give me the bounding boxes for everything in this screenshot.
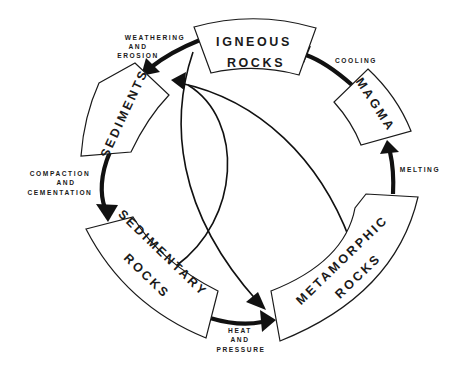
arrow-metamorphic-to-sediments (171, 72, 350, 240)
melting-label: MELTING (400, 166, 440, 173)
heat-line1: HEAT (228, 327, 252, 334)
rock-cycle-diagram: IGNEOUS ROCKS MAGMA METAMORPHIC ROCKS SE… (0, 0, 468, 372)
arrow-compaction-cementation (96, 152, 118, 222)
label-melting: MELTING (400, 166, 440, 173)
heat-line2: AND (230, 336, 249, 343)
arrow-melting (380, 140, 399, 194)
weathering-line1: WEATHERING (125, 34, 186, 41)
compaction-line1: COMPACTION (30, 170, 91, 177)
weathering-line2: AND (128, 43, 147, 50)
box-sedimentary-rocks: SEDIMENTARY ROCKS (86, 207, 218, 338)
box-igneous-rocks: IGNEOUS ROCKS (194, 19, 316, 75)
compaction-line3: CEMENTATION (28, 189, 93, 196)
igneous-line1: IGNEOUS (216, 35, 292, 49)
box-metamorphic-rocks: METAMORPHIC ROCKS (271, 194, 418, 341)
label-cooling: COOLING (335, 57, 377, 64)
cooling-label: COOLING (335, 57, 377, 64)
label-heat-pressure: HEAT AND PRESSURE (216, 327, 265, 353)
label-weathering-erosion: WEATHERING AND EROSION (117, 34, 185, 59)
arrow-sedimentary-to-sediments (176, 85, 228, 266)
compaction-line2: AND (56, 179, 75, 186)
box-sediments: SEDIMENTS (81, 63, 169, 160)
heat-line3: PRESSURE (216, 346, 265, 353)
arrow-igneous-to-metamorphic (181, 52, 266, 310)
igneous-line2: ROCKS (227, 56, 285, 70)
label-compaction-cementation: COMPACTION AND CEMENTATION (28, 170, 93, 196)
weathering-line3: EROSION (117, 52, 159, 59)
